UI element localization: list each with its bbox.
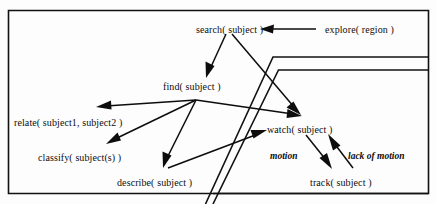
frame-group: [9, 11, 429, 205]
node-track[interactable]: track( subject ): [310, 178, 372, 188]
edge-describe-to-watch: [168, 130, 267, 168]
node-explore[interactable]: explore( region ): [325, 25, 394, 35]
node-describe[interactable]: describe( subject ): [117, 178, 192, 188]
edge-group: [96, 25, 353, 170]
edge-label-motion: motion: [270, 152, 297, 162]
node-relate[interactable]: relate( subject1, subject2 ): [14, 118, 122, 128]
diagram-canvas: search( subject ) explore( region ) find…: [0, 0, 437, 204]
edge-explore-to-search: [260, 25, 316, 34]
outer-frame: [9, 11, 429, 194]
edge-watch-to-track: [306, 135, 332, 169]
edge-find-to-describe: [163, 100, 197, 168]
edge-search-to-find: [206, 34, 227, 78]
node-search[interactable]: search( subject ): [196, 25, 263, 35]
node-classify[interactable]: classify( subject(s) ): [38, 153, 121, 163]
node-find[interactable]: find( subject ): [163, 82, 221, 92]
edge-find-to-relate: [96, 100, 196, 110]
edge-search-to-watch: [232, 34, 301, 115]
node-watch[interactable]: watch( subject ): [267, 125, 332, 135]
edge-label-lack-of-motion: lack of motion: [348, 152, 404, 162]
